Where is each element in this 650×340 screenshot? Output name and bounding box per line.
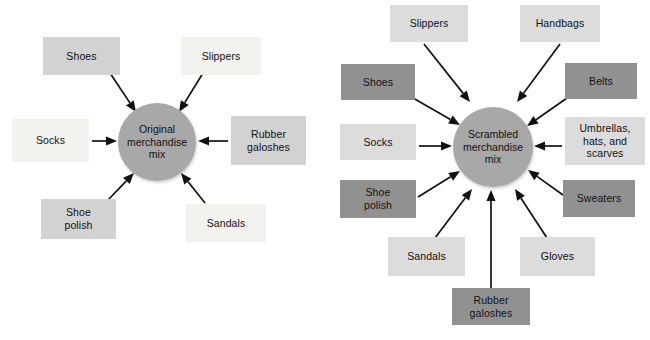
arrow-slippers-to-hub bbox=[179, 73, 203, 112]
hub-label: Scrambledmerchandisemix bbox=[463, 128, 523, 166]
arrow-shoes-to-hub bbox=[413, 98, 460, 125]
node-label: Socks bbox=[36, 134, 65, 147]
hub-label-line-3: mix bbox=[127, 148, 187, 161]
node-label-line: Socks bbox=[363, 136, 392, 149]
node-label: Shoes bbox=[66, 50, 96, 63]
node-box-shoe-polish: Shoepolish bbox=[340, 180, 416, 218]
node-label: Handbags bbox=[536, 17, 585, 30]
node-label: Sandals bbox=[407, 250, 446, 263]
arrow-sandals-to-hub bbox=[435, 189, 472, 238]
hub-scrambled-merchandise-mix: Scrambledmerchandisemix bbox=[453, 107, 533, 187]
node-label-line: Rubber bbox=[470, 294, 513, 307]
node-label-line: scarves bbox=[579, 147, 630, 160]
node-box-socks: Socks bbox=[340, 124, 416, 160]
node-label: Rubbergaloshes bbox=[470, 294, 513, 320]
node-label-line: Shoes bbox=[66, 50, 96, 63]
node-label-line: galoshes bbox=[470, 307, 513, 320]
node-box-shoe-polish: Shoepolish bbox=[41, 199, 116, 239]
arrow-umbrellas-to-hub bbox=[534, 141, 562, 150]
hub-label-line-2: merchandise bbox=[127, 136, 187, 149]
node-box-belts: Belts bbox=[565, 63, 637, 99]
arrow-shoes-to-hub bbox=[110, 73, 136, 112]
node-label: Gloves bbox=[541, 250, 574, 263]
node-box-shoes: Shoes bbox=[341, 64, 415, 100]
node-label-line: Slippers bbox=[410, 17, 449, 30]
node-box-sandals: Sandals bbox=[388, 237, 465, 276]
node-label-line: Shoe bbox=[364, 186, 392, 199]
node-label-line: Shoe bbox=[64, 206, 92, 219]
node-label-line: Sweaters bbox=[577, 192, 622, 205]
node-label-line: Rubber bbox=[247, 128, 290, 141]
arrow-belts-to-hub bbox=[527, 98, 567, 126]
node-label: Shoepolish bbox=[364, 186, 392, 212]
node-label-line: polish bbox=[364, 199, 392, 212]
hub-label-line-3: mix bbox=[463, 153, 523, 166]
node-box-slippers: Slippers bbox=[181, 37, 261, 75]
node-label: Shoes bbox=[363, 76, 393, 89]
node-box-sandals: Sandals bbox=[186, 204, 266, 242]
node-label: Rubbergaloshes bbox=[247, 128, 290, 154]
node-label: Belts bbox=[589, 75, 613, 88]
node-label-line: Handbags bbox=[536, 17, 585, 30]
node-box-umbrellas-hats-scarves: Umbrellas,hats, andscarves bbox=[565, 117, 645, 165]
node-label-line: Shoes bbox=[363, 76, 393, 89]
hub-label-line-1: Scrambled bbox=[463, 128, 523, 141]
diagram-scrambled-merchandise-mix: Scrambledmerchandisemix SlippersHandbags… bbox=[325, 0, 650, 340]
node-label: Slippers bbox=[202, 50, 241, 63]
arrow-socks-to-hub bbox=[92, 136, 117, 145]
hub-label: Originalmerchandisemix bbox=[127, 123, 187, 161]
node-box-rubber-galoshes: Rubbergaloshes bbox=[231, 116, 306, 165]
arrow-sweaters-to-hub bbox=[528, 170, 563, 195]
node-label-line: Gloves bbox=[541, 250, 574, 263]
arrow-sandals-to-hub bbox=[181, 173, 205, 203]
node-label-line: Umbrellas, bbox=[579, 122, 630, 135]
arrow-rubber-galoshes-to-hub bbox=[198, 136, 228, 145]
node-label-line: Slippers bbox=[202, 50, 241, 63]
node-label-line: Socks bbox=[36, 134, 65, 147]
node-label: Socks bbox=[363, 136, 392, 149]
node-box-socks: Socks bbox=[12, 119, 89, 162]
node-label: Sandals bbox=[207, 217, 246, 230]
node-label-line: Sandals bbox=[407, 250, 446, 263]
arrow-shoe-polish-to-hub bbox=[418, 171, 460, 197]
node-label-line: Belts bbox=[589, 75, 613, 88]
node-label: Umbrellas,hats, andscarves bbox=[579, 122, 630, 160]
node-label-line: polish bbox=[64, 219, 92, 232]
arrow-gloves-to-hub bbox=[515, 189, 547, 238]
arrow-shoe-polish-to-hub bbox=[108, 173, 134, 200]
diagram-original-merchandise-mix: Originalmerchandisemix ShoesSlippersSock… bbox=[0, 0, 325, 340]
node-label-line: Sandals bbox=[207, 217, 246, 230]
arrow-socks-to-hub bbox=[419, 141, 452, 150]
node-label-line: galoshes bbox=[247, 141, 290, 154]
node-box-sweaters: Sweaters bbox=[563, 180, 635, 217]
node-box-slippers: Slippers bbox=[390, 5, 468, 42]
node-label: Sweaters bbox=[577, 192, 622, 205]
node-box-gloves: Gloves bbox=[520, 237, 595, 276]
arrow-handbags-to-hub bbox=[517, 44, 560, 102]
hub-label-line-1: Original bbox=[127, 123, 187, 136]
hub-label-line-2: merchandise bbox=[463, 141, 523, 154]
node-label: Slippers bbox=[410, 17, 449, 30]
arrow-rubber-galoshes-to-hub bbox=[486, 190, 495, 289]
arrow-slippers-to-hub bbox=[424, 44, 470, 102]
node-box-shoes: Shoes bbox=[43, 37, 120, 75]
node-box-rubber-galoshes: Rubbergaloshes bbox=[452, 288, 530, 325]
hub-original-merchandise-mix: Originalmerchandisemix bbox=[118, 103, 196, 181]
node-label-line: hats, and bbox=[579, 135, 630, 148]
figure-canvas: Originalmerchandisemix ShoesSlippersSock… bbox=[0, 0, 650, 340]
node-box-handbags: Handbags bbox=[520, 5, 600, 42]
node-label: Shoepolish bbox=[64, 206, 92, 232]
